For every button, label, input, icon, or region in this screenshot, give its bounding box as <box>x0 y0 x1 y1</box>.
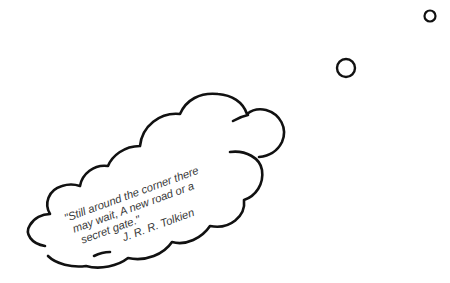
trail-circle-small <box>425 11 436 22</box>
trail-circle-large <box>337 59 355 77</box>
quote-block: "Still around the corner there may wait,… <box>63 164 214 260</box>
thought-bubble-illustration: "Still around the corner there may wait,… <box>0 0 450 283</box>
